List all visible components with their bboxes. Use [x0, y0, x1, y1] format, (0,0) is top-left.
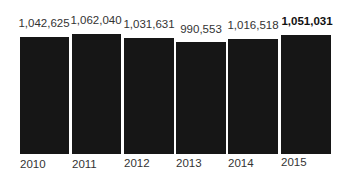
- x-tick-2011: 2011: [72, 158, 97, 170]
- x-tick-2013: 2013: [176, 157, 202, 169]
- bar-chart: 1,042,625 1,062,040 1,031,631 990,553 1,…: [0, 0, 349, 182]
- bar-2010: [20, 37, 69, 154]
- bar-2015: [281, 35, 331, 154]
- value-label-2013: 990,553: [171, 23, 231, 35]
- bar-2012: [124, 38, 174, 154]
- bar-2014: [228, 39, 278, 154]
- bar-2011: [72, 34, 121, 154]
- value-label-2011: 1,062,040: [66, 14, 126, 26]
- x-tick-2015: 2015: [281, 156, 307, 168]
- x-tick-2012: 2012: [124, 157, 150, 169]
- value-label-2012: 1,031,631: [119, 18, 179, 30]
- x-tick-2010: 2010: [20, 158, 46, 170]
- x-tick-2014: 2014: [228, 157, 254, 169]
- value-label-2010: 1,042,625: [14, 17, 74, 29]
- value-label-2014: 1,016,518: [223, 19, 283, 31]
- bar-2013: [176, 42, 226, 154]
- value-label-2015: 1,051,031: [277, 15, 337, 27]
